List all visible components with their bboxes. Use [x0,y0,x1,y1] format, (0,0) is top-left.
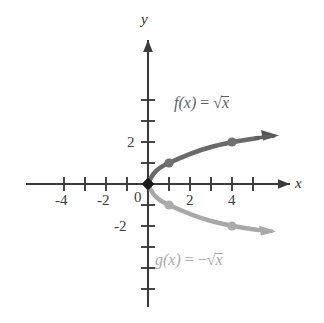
x-axis-label: x [295,176,302,191]
g-name: g [155,251,163,268]
point-f-1-1 [164,158,173,167]
curve-f-arrow-shaft [256,136,274,138]
function-label-f: f(x) = √x [174,95,229,111]
x-tick-label--4: -4 [55,193,68,208]
graph-figure: x y -4 -2 2 4 2 -2 0 f(x) = √x g(x) = −√… [0,0,324,323]
function-label-g: g(x) = −√x [155,252,223,268]
y-axis-arrowhead [143,40,153,52]
f-argument: (x) [178,94,196,111]
curve-f [148,130,279,184]
radical-vinculum-g [215,253,223,254]
curve-f-path [148,138,258,184]
curve-g-path [148,184,258,230]
y-tick-label--2: -2 [114,219,127,234]
point-g-4--2 [227,221,236,230]
x-axis [26,179,290,189]
x-tick-label-4: 4 [228,193,236,208]
point-g-1--1 [164,200,173,209]
curve-g-arrow-shaft [256,230,272,232]
g-minus-sign: − [198,251,207,268]
coordinate-plane [0,0,324,323]
y-axis-label: y [141,12,148,27]
curve-g [148,184,276,236]
g-argument: (x) [163,251,181,268]
f-radical: √x [213,95,229,111]
g-radical: √x [207,252,223,268]
y-tick-label-2: 2 [127,135,135,150]
origin-label: 0 [134,190,142,205]
x-axis-arrowhead [278,179,290,189]
x-tick-label-2: 2 [186,193,194,208]
g-equals: = [185,251,194,268]
x-tick-label--2: -2 [97,193,110,208]
f-equals: = [200,94,209,111]
radical-vinculum-f [221,96,229,97]
point-f-4-2 [227,137,236,146]
